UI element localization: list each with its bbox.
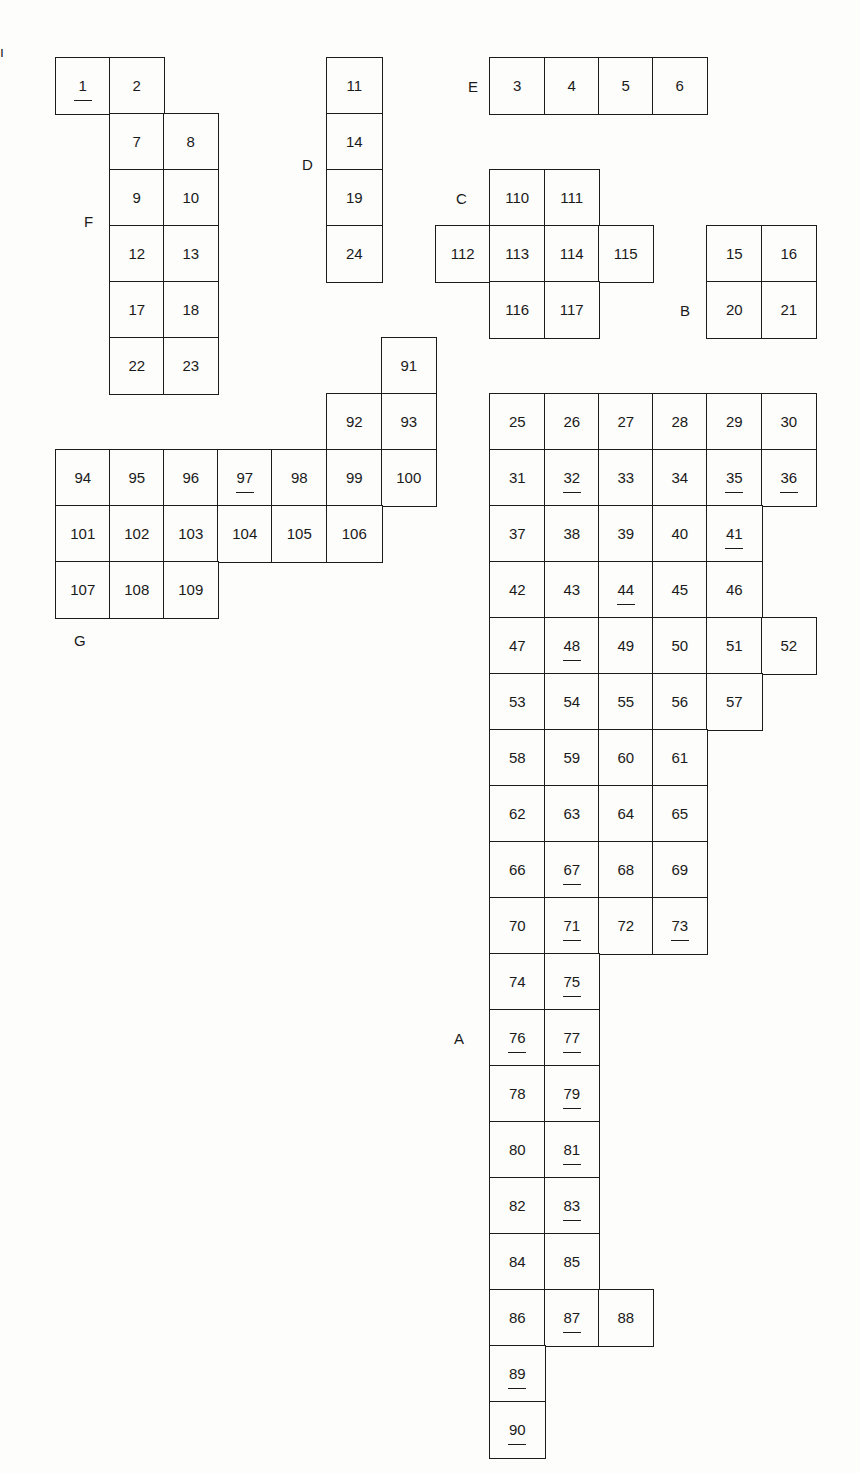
cell-61: 61 — [652, 729, 708, 787]
cell-number: 111 — [560, 189, 583, 206]
cell-number: 39 — [617, 525, 634, 542]
cell-45: 45 — [652, 561, 708, 619]
cell-number: 6 — [676, 77, 684, 94]
cell-20: 20 — [706, 281, 763, 339]
cell-73: 73 — [652, 897, 708, 955]
cell-11: 11 — [326, 57, 383, 115]
cell-number: 103 — [178, 525, 203, 542]
cell-number: 46 — [726, 581, 743, 598]
cell-number: 41 — [726, 525, 743, 542]
cell-number: 114 — [560, 245, 584, 262]
cell-number: 104 — [232, 525, 257, 542]
cell-94: 94 — [55, 449, 111, 507]
cell-36: 36 — [761, 449, 817, 507]
cell-21: 21 — [761, 281, 817, 339]
cell-62: 62 — [489, 785, 546, 843]
block-label: F — [84, 213, 93, 230]
block-label: D — [302, 156, 313, 173]
cell-27: 27 — [598, 393, 654, 451]
cell-number: 70 — [509, 917, 526, 934]
cell-80: 80 — [489, 1121, 546, 1179]
cell-number: 100 — [396, 469, 421, 486]
cell-number: 38 — [563, 525, 580, 542]
cell-number: 10 — [182, 189, 199, 206]
cell-104: 104 — [217, 505, 273, 563]
cell-number: 48 — [563, 637, 580, 654]
cell-96: 96 — [163, 449, 219, 507]
cell-18: 18 — [163, 281, 219, 339]
block-label: E — [468, 78, 478, 95]
cell-55: 55 — [598, 673, 654, 731]
cell-44: 44 — [598, 561, 654, 619]
cell-88: 88 — [598, 1289, 654, 1347]
cell-106: 106 — [326, 505, 383, 563]
cell-89: 89 — [489, 1345, 546, 1403]
cell-number: 49 — [617, 637, 634, 654]
cell-5: 5 — [598, 57, 654, 115]
cell-114: 114 — [544, 225, 600, 283]
cell-98: 98 — [271, 449, 328, 507]
cell-number: 115 — [614, 245, 638, 262]
cell-number: 18 — [182, 301, 199, 318]
cell-number: 74 — [509, 973, 526, 990]
block-label: G — [74, 632, 86, 649]
cell-26: 26 — [544, 393, 600, 451]
cell-number: 20 — [726, 301, 743, 318]
cell-3: 3 — [489, 57, 546, 115]
cell-117: 117 — [544, 281, 600, 339]
cell-102: 102 — [109, 505, 165, 563]
cell-number: 72 — [617, 917, 634, 934]
cell-number: 34 — [671, 469, 688, 486]
cell-number: 30 — [780, 413, 797, 430]
cell-number: 54 — [563, 693, 580, 710]
cell-number: 19 — [346, 189, 363, 206]
cell-number: 8 — [187, 133, 195, 150]
cell-number: 99 — [346, 469, 363, 486]
cell-number: 113 — [505, 245, 529, 262]
cell-number: 9 — [133, 189, 141, 206]
cell-70: 70 — [489, 897, 546, 955]
cell-number: 50 — [671, 637, 688, 654]
cell-41: 41 — [706, 505, 763, 563]
cell-74: 74 — [489, 953, 546, 1011]
cell-number: 15 — [726, 245, 743, 262]
cell-number: 55 — [617, 693, 634, 710]
cell-65: 65 — [652, 785, 708, 843]
cell-17: 17 — [109, 281, 165, 339]
cell-115: 115 — [598, 225, 654, 283]
cell-85: 85 — [544, 1233, 600, 1291]
cell-52: 52 — [761, 617, 817, 675]
cell-number: 79 — [563, 1085, 580, 1102]
cell-number: 116 — [505, 301, 529, 318]
cell-number: 59 — [563, 749, 580, 766]
cell-30: 30 — [761, 393, 817, 451]
cell-number: 96 — [182, 469, 199, 486]
cell-38: 38 — [544, 505, 600, 563]
cell-105: 105 — [271, 505, 328, 563]
cell-number: 66 — [509, 861, 526, 878]
cell-43: 43 — [544, 561, 600, 619]
cell-number: 11 — [346, 77, 362, 94]
cell-48: 48 — [544, 617, 600, 675]
cell-24: 24 — [326, 225, 383, 283]
cell-number: 36 — [780, 469, 797, 486]
cell-number: 47 — [509, 637, 526, 654]
cell-39: 39 — [598, 505, 654, 563]
cell-10: 10 — [163, 169, 219, 227]
cell-93: 93 — [381, 393, 437, 451]
cell-53: 53 — [489, 673, 546, 731]
cell-number: 53 — [509, 693, 526, 710]
cell-116: 116 — [489, 281, 546, 339]
cell-number: 21 — [780, 301, 797, 318]
cell-34: 34 — [652, 449, 708, 507]
cell-number: 62 — [509, 805, 526, 822]
cell-number: 63 — [563, 805, 580, 822]
cell-100: 100 — [381, 449, 437, 507]
block-label: C — [456, 190, 467, 207]
cell-79: 79 — [544, 1065, 600, 1123]
cell-number: 105 — [287, 525, 312, 542]
cell-number: 56 — [671, 693, 688, 710]
cell-number: 60 — [617, 749, 634, 766]
cell-number: 42 — [509, 581, 526, 598]
cell-number: 80 — [509, 1141, 526, 1158]
